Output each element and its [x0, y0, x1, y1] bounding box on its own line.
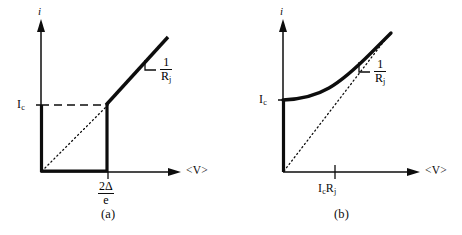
caption-b: (b) [334, 208, 349, 221]
x-axis-label-a: <V> [186, 165, 208, 177]
x-tick-numerator-a: 2Δ [98, 180, 114, 192]
panel-b-plot [231, 0, 462, 235]
y-tick-label-b: Ic [259, 93, 267, 107]
x-tick-label-a: 2Δ e [98, 180, 114, 206]
x-axis-label-b: <V> [425, 165, 447, 177]
slope-denominator-b: Rj [374, 72, 386, 87]
caption-a: (a) [101, 208, 115, 221]
slope-numerator-b: 1 [374, 58, 386, 70]
slope-numerator-a: 1 [160, 56, 172, 68]
panel-a: i <V> Ic 2Δ e 1 Rj (a) [0, 0, 231, 235]
ohmic-asymptote-a [42, 105, 108, 171]
x-tick-denominator-a: e [98, 194, 114, 206]
slope-denominator-a: Rj [160, 70, 172, 85]
panel-b: i <V> Ic IcRj 1 Rj (b) [231, 0, 462, 235]
panel-a-plot [0, 0, 231, 235]
x-axis-b [283, 168, 420, 176]
y-axis-label-b: i [280, 6, 283, 17]
y-tick-label-a: Ic [17, 98, 25, 112]
y-axis-label-a: i [38, 6, 41, 17]
ohmic-asymptote-b [284, 36, 388, 171]
x-tick-label-b: IcRj [318, 182, 336, 196]
quasiparticle-branch-a [106, 37, 168, 105]
y-tick-label-a-sub: c [21, 103, 25, 112]
figure-josephson-iv-characteristics: i <V> Ic 2Δ e 1 Rj (a) [0, 0, 462, 235]
slope-label-b: 1 Rj [374, 58, 386, 87]
slope-label-a: 1 Rj [160, 56, 172, 85]
